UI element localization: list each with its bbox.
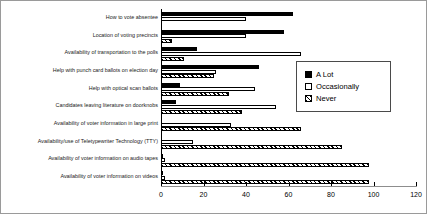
bar-occ [161, 105, 276, 109]
bar-never [161, 74, 214, 78]
category-label: Availability/use of Teletypewriter Techn… [38, 139, 158, 145]
x-axis-line [161, 186, 417, 187]
bar-occ [161, 176, 165, 180]
bar-occ [161, 70, 216, 74]
category-label: Availability of voter information on aud… [48, 156, 158, 162]
x-tick-mark [416, 182, 417, 186]
category-label: Availability of voter information in lar… [54, 121, 158, 127]
bar-never [161, 92, 229, 96]
category-label: Availability of transportation to the po… [65, 50, 158, 56]
x-tick-mark [289, 182, 290, 186]
legend-label-never: Never [316, 94, 336, 103]
legend-label-a-lot: A Lot [316, 70, 333, 79]
bar-occ [161, 140, 193, 144]
legend-item-a-lot: A Lot [305, 70, 384, 79]
chart-legend: A Lot Occasionally Never [296, 61, 391, 112]
category-label: Availability of voter information on vid… [60, 174, 158, 180]
x-tick-label: 0 [159, 191, 163, 198]
bar-alot [161, 65, 259, 69]
x-tick-mark [374, 182, 375, 186]
x-tick-mark [246, 182, 247, 186]
bar-alot [161, 171, 163, 175]
legend-swatch-never-icon [305, 95, 312, 102]
bar-occ [161, 123, 231, 127]
x-tick-mark [331, 182, 332, 186]
bar-occ [161, 17, 246, 21]
x-tick-label: 60 [285, 191, 293, 198]
bar-alot [161, 30, 284, 34]
bar-chart: How to vote absenteeLocation of voting p… [0, 0, 427, 214]
bar-alot [161, 154, 163, 158]
x-tick-mark [204, 182, 205, 186]
bar-never [161, 180, 369, 184]
bar-alot [161, 47, 197, 51]
bar-alot [161, 12, 293, 16]
bar-occ [161, 87, 255, 91]
legend-label-occasionally: Occasionally [316, 82, 359, 91]
x-tick-label: 20 [200, 191, 208, 198]
category-label: Help with punch card ballots on election… [53, 68, 158, 74]
x-tick-label: 40 [242, 191, 250, 198]
bar-never [161, 127, 301, 131]
x-tick-label: 80 [327, 191, 335, 198]
legend-swatch-a-lot-icon [305, 71, 312, 78]
bar-alot [161, 83, 180, 87]
bar-occ [161, 34, 246, 38]
category-label: Location of voting precincts [93, 33, 158, 39]
x-tick-mark [161, 182, 162, 186]
bar-never [161, 110, 242, 114]
bar-occ [161, 52, 301, 56]
bar-never [161, 145, 342, 149]
bar-occ [161, 158, 165, 162]
category-label: Candidates leaving literature on doorkno… [56, 103, 159, 109]
x-tick-label: 120 [410, 191, 422, 198]
bar-never [161, 39, 172, 43]
category-label: How to vote absentee [106, 15, 158, 21]
legend-swatch-occasionally-icon [305, 83, 312, 90]
legend-item-occasionally: Occasionally [305, 82, 384, 91]
bar-never [161, 163, 369, 167]
x-tick-label: 100 [368, 191, 380, 198]
legend-item-never: Never [305, 94, 384, 103]
bar-alot [161, 100, 176, 104]
bar-never [161, 57, 184, 61]
category-label: Help with optical scan ballots [89, 86, 158, 92]
